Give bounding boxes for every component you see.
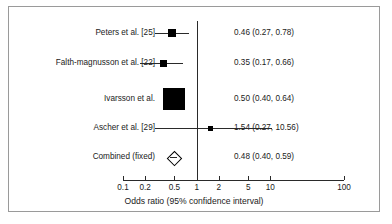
study-label: Falth-magnusson et al. [22] — [9, 58, 155, 68]
x-axis-tick — [270, 176, 271, 180]
study-label: Ivarsson et al. — [9, 94, 155, 104]
point-estimate-marker — [208, 126, 213, 131]
x-axis-tick — [197, 176, 198, 180]
x-axis-line — [123, 180, 344, 181]
x-axis-tick — [344, 176, 345, 180]
study-effect-text: 0.35 (0.17, 0.66) — [234, 58, 374, 68]
forest-plot-figure: Peters et al. [25]0.46 (0.27, 0.78)Falth… — [8, 6, 380, 212]
x-axis-tick — [145, 176, 146, 180]
point-estimate-marker — [168, 29, 176, 37]
point-estimate-marker — [163, 88, 185, 110]
study-effect-text: 0.46 (0.27, 0.78) — [234, 28, 374, 38]
x-axis-tick — [123, 176, 124, 180]
study-label: Ascher et al. [29] — [9, 123, 155, 133]
point-estimate-marker — [160, 60, 167, 67]
combined-effect-line — [170, 157, 177, 158]
study-label: Combined (fixed) — [9, 152, 155, 162]
plot-area: Peters et al. [25]0.46 (0.27, 0.78)Falth… — [9, 7, 379, 211]
x-axis-tick-label: 100 — [324, 183, 364, 193]
study-label: Peters et al. [25] — [9, 28, 155, 38]
confidence-interval-line — [155, 128, 272, 129]
null-effect-line — [197, 21, 198, 180]
study-effect-text: 0.48 (0.40, 0.59) — [234, 152, 374, 162]
x-axis-tick — [174, 176, 175, 180]
study-effect-text: 0.50 (0.40, 0.64) — [234, 94, 374, 104]
x-axis-title: Odds ratio (95% confidence interval) — [9, 196, 379, 207]
x-axis-tick-label: 10 — [250, 183, 290, 193]
x-axis-tick — [219, 176, 220, 180]
x-axis-tick — [248, 176, 249, 180]
